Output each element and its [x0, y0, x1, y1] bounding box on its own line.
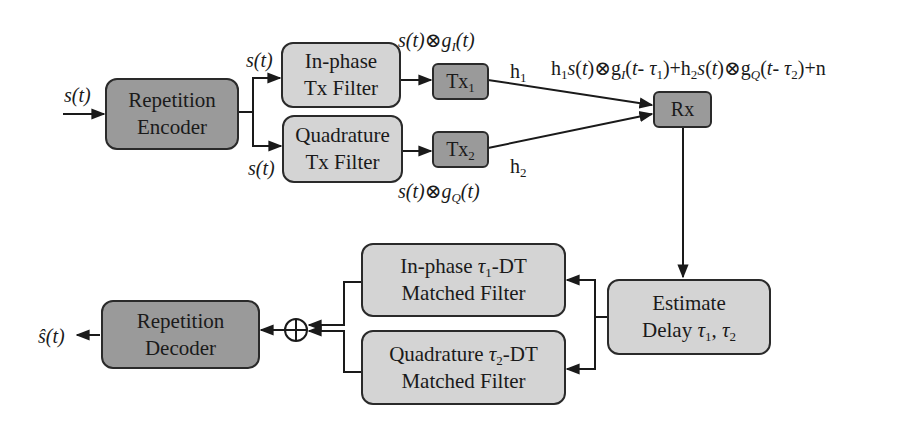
inphase-tx-line2: Tx Filter — [304, 75, 378, 102]
quad-tx-line2: Tx Filter — [305, 149, 379, 176]
inphase-mf-line1: In-phase τ1-DT — [400, 253, 527, 280]
s-top-label: s(t) — [246, 49, 273, 71]
tx1-block: Tx1 — [432, 63, 489, 100]
repetition-decoder-block: Repetition Decoder — [101, 300, 260, 369]
rx-block: Rx — [653, 91, 712, 128]
inphase-mf-to-sum-arrow — [309, 282, 361, 325]
s-bottom-label: s(t) — [248, 157, 275, 179]
tx2-block: Tx2 — [432, 131, 489, 168]
inphase-matched-filter-block: In-phase τ1-DT Matched Filter — [361, 243, 566, 317]
quad-tx-line1: Quadrature — [295, 122, 389, 149]
h1-label: h1 — [510, 60, 527, 82]
rep-decoder-line1: Repetition — [137, 308, 225, 335]
quad-mf-to-sum-arrow — [309, 331, 361, 372]
input-signal-label: s(t) — [64, 84, 91, 106]
quadrature-matched-filter-block: Quadrature τ2-DT Matched Filter — [361, 330, 566, 405]
quad-mf-line1: Quadrature τ2-DT — [389, 341, 538, 368]
rep-encoder-line2: Encoder — [137, 114, 207, 141]
estimate-to-quad-mf-arrow — [567, 317, 595, 369]
tx2-label: Tx2 — [446, 136, 475, 163]
received-signal-label: h1s(t)⊗gI(t- τ1)+h2s(t)⊗gQ(t- τ2)+n — [551, 57, 826, 79]
estimate-line2: Delay τ1, τ2 — [642, 317, 736, 344]
quad-mf-line2: Matched Filter — [401, 368, 525, 395]
inphase-tx-filter-block: In-phase Tx Filter — [281, 42, 401, 108]
estimate-to-inphase-mf-arrow — [567, 280, 607, 317]
inphase-tx-line1: In-phase — [305, 48, 377, 75]
encoder-to-inphase-arrow — [238, 78, 280, 112]
conv-i-label: s(t)⊗gI(t) — [398, 29, 475, 51]
tx1-label: Tx1 — [446, 68, 475, 95]
rx-label: Rx — [671, 96, 694, 123]
inphase-mf-line2: Matched Filter — [401, 280, 525, 307]
tx1-to-rx-arrow — [488, 80, 652, 105]
estimate-delay-block: Estimate Delay τ1, τ2 — [607, 279, 771, 355]
rep-encoder-line1: Repetition — [128, 87, 216, 114]
h2-label: h2 — [510, 155, 527, 177]
quadrature-tx-filter-block: Quadrature Tx Filter — [282, 115, 403, 183]
encoder-to-quad-arrow — [253, 112, 281, 146]
output-signal-label: ŝ(t) — [38, 325, 65, 347]
estimate-line1: Estimate — [652, 290, 725, 317]
tx2-to-rx-arrow — [488, 114, 652, 148]
conv-q-label: s(t)⊗gQ(t) — [398, 180, 480, 202]
repetition-encoder-block: Repetition Encoder — [105, 78, 239, 150]
rep-decoder-line2: Decoder — [145, 335, 216, 362]
